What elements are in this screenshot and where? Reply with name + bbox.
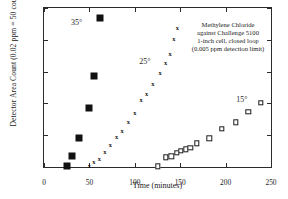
x-axis-tick-label: 50 bbox=[86, 179, 93, 186]
y-axis-tick-right bbox=[267, 167, 271, 168]
data-point bbox=[163, 60, 168, 66]
series-label: 25° bbox=[139, 57, 150, 66]
x-axis-tick-label: 0 bbox=[42, 179, 46, 186]
x-axis-tick bbox=[180, 163, 181, 167]
x-axis-tick bbox=[44, 163, 45, 167]
x-axis-tick-top bbox=[89, 8, 90, 12]
data-point bbox=[139, 97, 144, 103]
data-point bbox=[86, 105, 93, 112]
x-axis-tick-top bbox=[180, 8, 181, 12]
annotation-line-2: against Challenge 5100 bbox=[173, 29, 283, 37]
data-point bbox=[90, 73, 97, 80]
x-axis-tick-label: 150 bbox=[175, 179, 186, 186]
x-axis-tick bbox=[135, 163, 136, 167]
series-label: 35° bbox=[71, 17, 82, 26]
x-axis-tick-label: 200 bbox=[220, 179, 231, 186]
x-axis-tick-label: 100 bbox=[129, 179, 140, 186]
data-point bbox=[150, 81, 155, 87]
data-point bbox=[219, 126, 224, 131]
annotation-line-1: Methylene Chloride bbox=[173, 21, 283, 29]
data-point bbox=[120, 128, 125, 134]
annotation-line-3: 1-inch cell, closed loop bbox=[173, 37, 283, 45]
data-point bbox=[97, 15, 104, 22]
chart-annotation-text: Methylene Chloride against Challenge 510… bbox=[173, 21, 283, 53]
y-axis-tick bbox=[44, 103, 48, 104]
data-point bbox=[194, 141, 199, 146]
series-label: 15° bbox=[236, 94, 247, 103]
data-point bbox=[158, 70, 163, 76]
x-axis-tick-top bbox=[271, 8, 272, 12]
data-point bbox=[114, 134, 119, 140]
x-axis-tick-top bbox=[135, 8, 136, 12]
y-axis-tick-right bbox=[267, 72, 271, 73]
data-point bbox=[258, 100, 263, 105]
y-axis-tick-right bbox=[267, 135, 271, 136]
x-axis-tick bbox=[226, 163, 227, 167]
data-point bbox=[155, 164, 160, 169]
data-point bbox=[97, 156, 102, 162]
y-axis-tick bbox=[44, 135, 48, 136]
data-point bbox=[246, 109, 251, 114]
data-point bbox=[75, 134, 82, 141]
data-point bbox=[69, 152, 76, 159]
data-point bbox=[144, 91, 149, 97]
y-axis-title: Detector Area Count (0.02 ppm = 50 count… bbox=[9, 0, 18, 131]
data-point bbox=[63, 163, 70, 170]
x-axis-tick-top bbox=[226, 8, 227, 12]
y-axis-tick bbox=[44, 40, 48, 41]
data-point bbox=[168, 51, 173, 57]
y-axis-tick-right bbox=[267, 103, 271, 104]
data-point bbox=[102, 149, 107, 155]
data-point bbox=[207, 136, 212, 141]
scatter-chart-figure: Detector Area Count (0.02 ppm = 50 count… bbox=[0, 0, 288, 199]
data-point bbox=[126, 119, 131, 125]
data-point bbox=[91, 159, 96, 165]
data-point bbox=[233, 120, 238, 125]
x-axis-tick-label: 250 bbox=[265, 179, 276, 186]
x-axis-tick-top bbox=[44, 8, 45, 12]
data-point bbox=[132, 110, 137, 116]
x-axis-title: Time (minutes) bbox=[43, 181, 272, 190]
x-axis-tick bbox=[271, 163, 272, 167]
data-point bbox=[187, 145, 192, 150]
annotation-line-4: (0.005 ppm detection limit) bbox=[173, 45, 283, 53]
data-point bbox=[108, 142, 113, 148]
y-axis-tick bbox=[44, 167, 48, 168]
y-axis-tick bbox=[44, 72, 48, 73]
